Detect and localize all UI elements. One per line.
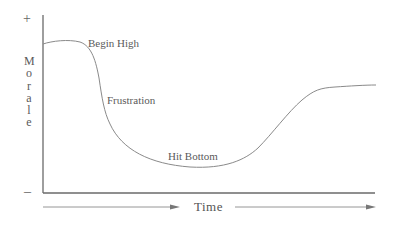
arrow-right-icon: [170, 205, 180, 210]
morale-curve: [43, 41, 376, 168]
y-axis-letter: e: [24, 116, 34, 128]
x-axis-label: Time: [194, 200, 223, 213]
diagram-canvas: [0, 0, 398, 226]
y-axis-plus-sign: +: [23, 12, 31, 26]
y-axis-label: M o r a l e: [24, 55, 34, 129]
annotation-hit-bottom: Hit Bottom: [168, 151, 218, 162]
y-axis-letter: o: [24, 67, 34, 79]
annotation-begin-high: Begin High: [88, 38, 139, 49]
arrow-right-icon: [366, 205, 376, 210]
morale-curve-diagram: + – M o r a l e Begin High Frustration H…: [0, 0, 398, 226]
y-axis-minus-sign: –: [24, 185, 31, 199]
annotation-frustration: Frustration: [107, 95, 155, 106]
